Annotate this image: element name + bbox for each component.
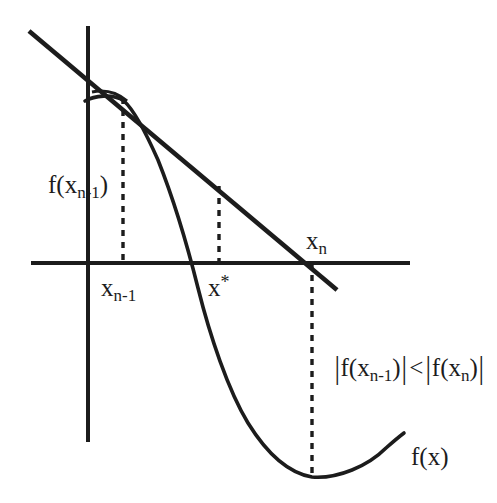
diagram-canvas — [0, 0, 497, 503]
label-x-n-minus-1: xn-1 — [101, 275, 136, 300]
label-f-x-n-minus-1: f(xn-1) — [48, 172, 108, 197]
inequality-right-open-bar: | — [426, 351, 432, 384]
inequality-left-open-bar: | — [334, 351, 340, 384]
inequality-operator: < — [407, 354, 425, 381]
inequality-left-prefix: f(x — [341, 354, 370, 381]
label-x-star-superscript: * — [221, 272, 230, 292]
inequality-right-prefix: f(x — [432, 354, 461, 381]
secant-line — [29, 31, 337, 290]
inequality-right-subscript: n — [461, 366, 470, 385]
inequality-left-close-bar: | — [401, 351, 407, 384]
label-x-star: x* — [208, 275, 230, 300]
label-function-name: f(x) — [411, 444, 448, 469]
label-inequality: |f(xn-1)|<|f(xn)| — [334, 349, 484, 382]
label-f-x-n-minus-1-subscript: n-1 — [77, 183, 100, 202]
inequality-right-close-bar: | — [478, 351, 484, 384]
label-f-x-n-minus-1-prefix: f(x — [48, 171, 77, 198]
label-x-n: xn — [306, 228, 327, 253]
label-x-star-base: x — [208, 274, 221, 301]
label-x-n-minus-1-subscript: n-1 — [114, 286, 137, 305]
inequality-left-suffix: ) — [392, 354, 400, 381]
label-x-n-base: x — [306, 227, 319, 254]
label-x-n-minus-1-base: x — [101, 274, 114, 301]
label-x-n-subscript: n — [319, 239, 328, 258]
inequality-right-suffix: ) — [469, 354, 477, 381]
inequality-left-subscript: n-1 — [370, 366, 393, 385]
secant-method-diagram: f(xn-1) xn-1 x* xn |f(xn-1)|<|f(xn)| f(x… — [0, 0, 497, 503]
label-f-x-n-minus-1-suffix: ) — [100, 171, 108, 198]
